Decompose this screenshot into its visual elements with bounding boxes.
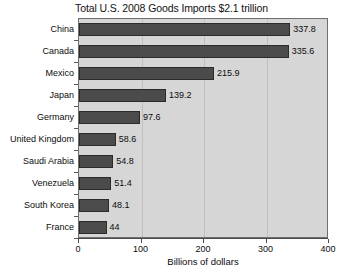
- category-tick: [74, 62, 78, 63]
- category-label-united-kingdom: United Kingdom: [0, 128, 74, 150]
- category-label-saudi-arabia: Saudi Arabia: [0, 150, 74, 172]
- x-axis-tick: [203, 239, 204, 243]
- x-axis-tick-label: 300: [246, 244, 286, 255]
- category-label-south-korea: South Korea: [0, 194, 74, 216]
- bar-value-label: 54.8: [113, 155, 134, 168]
- bar-row: 58.6: [79, 129, 327, 151]
- plot-area: 337.8335.6215.9139.297.658.654.851.448.1…: [78, 18, 328, 238]
- category-label-france: France: [0, 216, 74, 238]
- bar-row: 51.4: [79, 173, 327, 195]
- category-axis-labels: ChinaCanadaMexicoJapanGermanyUnited King…: [0, 18, 74, 238]
- bar: [79, 67, 214, 80]
- category-tick: [74, 216, 78, 217]
- bar: [79, 133, 116, 146]
- bar-row: 54.8: [79, 151, 327, 173]
- x-axis-tick-label: 200: [183, 244, 223, 255]
- category-label-mexico: Mexico: [0, 62, 74, 84]
- category-tick: [74, 172, 78, 173]
- bar-row: 215.9: [79, 63, 327, 85]
- category-tick: [74, 150, 78, 151]
- bar: [79, 199, 109, 212]
- category-label-canada: Canada: [0, 40, 74, 62]
- x-axis-tick-label: 100: [121, 244, 161, 255]
- category-tick: [74, 84, 78, 85]
- bar: [79, 23, 290, 36]
- category-tick: [74, 40, 78, 41]
- bar: [79, 155, 113, 168]
- bar-value-label: 139.2: [166, 89, 192, 102]
- bar-value-label: 335.6: [289, 45, 315, 58]
- category-label-venezuela: Venezuela: [0, 172, 74, 194]
- bar-value-label: 48.1: [109, 199, 130, 212]
- x-axis-tick: [78, 239, 79, 243]
- bar-value-label: 51.4: [111, 177, 132, 190]
- category-label-china: China: [0, 18, 74, 40]
- bar: [79, 45, 289, 58]
- chart-title: Total U.S. 2008 Goods Imports $2.1 trill…: [0, 1, 343, 15]
- x-axis-title: Billions of dollars: [78, 256, 328, 268]
- bar: [79, 177, 111, 190]
- bar-value-label: 215.9: [214, 67, 240, 80]
- bar: [79, 221, 107, 234]
- bars-layer: 337.8335.6215.9139.297.658.654.851.448.1…: [79, 19, 327, 237]
- x-axis-tick-label: 0: [58, 244, 98, 255]
- bar-row: 335.6: [79, 41, 327, 63]
- x-axis-tick-label: 400: [308, 244, 343, 255]
- category-tick: [74, 194, 78, 195]
- x-axis-tick: [328, 239, 329, 243]
- bar-value-label: 58.6: [116, 133, 137, 146]
- x-axis-tick: [266, 239, 267, 243]
- x-axis-tick: [141, 239, 142, 243]
- bar-chart: Total U.S. 2008 Goods Imports $2.1 trill…: [0, 0, 343, 269]
- bar-row: 48.1: [79, 195, 327, 217]
- bar-value-label: 44: [107, 221, 120, 234]
- category-tick: [74, 128, 78, 129]
- bar-row: 97.6: [79, 107, 327, 129]
- category-tick: [74, 238, 78, 239]
- bar-row: 337.8: [79, 19, 327, 41]
- bar-row: 44: [79, 217, 327, 239]
- category-label-germany: Germany: [0, 106, 74, 128]
- bar-value-label: 97.6: [140, 111, 161, 124]
- category-label-japan: Japan: [0, 84, 74, 106]
- bar: [79, 89, 166, 102]
- bar-row: 139.2: [79, 85, 327, 107]
- bar: [79, 111, 140, 124]
- bar-value-label: 337.8: [290, 23, 316, 36]
- category-tick: [74, 106, 78, 107]
